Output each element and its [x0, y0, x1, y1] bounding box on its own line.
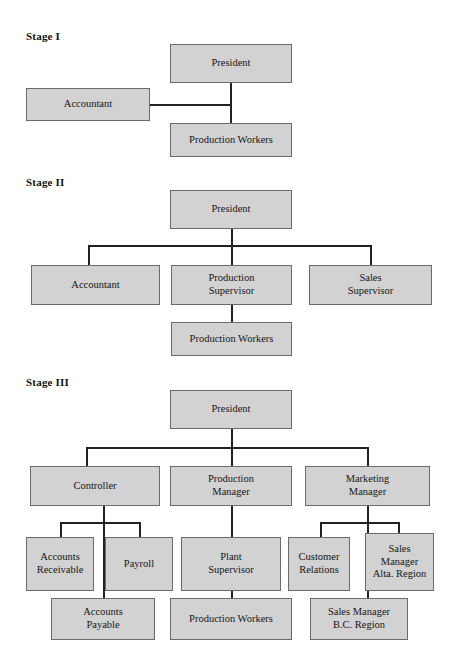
node-s3-payroll: Payroll [105, 537, 173, 591]
node-label: ProductionManager [173, 473, 289, 499]
connector-s2-drop-production-supervisor [231, 245, 233, 265]
node-s2-production-supervisor: ProductionSupervisor [171, 265, 292, 305]
connector-s3-controller-bus [60, 522, 140, 524]
node-s1-accountant: Accountant [26, 88, 150, 121]
node-s1-production-workers: Production Workers [170, 123, 292, 157]
connector-s2-supervisor-to-workers [231, 305, 233, 322]
node-label: Accountant [34, 279, 157, 292]
node-label: CustomerRelations [291, 551, 347, 577]
node-s3-sales-manager-bc: Sales ManagerB.C. Region [310, 598, 408, 640]
node-label: President [173, 57, 289, 70]
node-label: Controller [33, 480, 157, 493]
node-s1-president: President [170, 44, 292, 83]
connector-s3-production-manager-to-plant [231, 506, 233, 537]
connector-s3-drop-controller [86, 447, 88, 466]
node-label: AccountsPayable [54, 606, 152, 632]
node-label: Payroll [108, 558, 170, 571]
node-s3-customer-relations: CustomerRelations [288, 537, 350, 591]
connector-s2-drop-sales-supervisor [370, 245, 372, 265]
connector-s2-bus [88, 245, 371, 247]
node-label: SalesSupervisor [312, 272, 429, 298]
node-label: ProductionSupervisor [174, 272, 289, 298]
connector-s3-president-stem [231, 429, 233, 448]
node-label: Production Workers [173, 613, 289, 626]
node-s3-marketing-manager: MarketingManager [305, 466, 430, 506]
connector-s3-drop-payroll [139, 522, 141, 537]
connector-s3-drop-production-manager [231, 447, 233, 466]
node-label: President [173, 203, 289, 216]
org-chart-diagram: Stage I President Accountant Production … [0, 0, 475, 670]
connector-s3-drop-customer-relations [320, 522, 322, 537]
connector-s3-drop-accounts-receivable [60, 522, 62, 537]
node-label: Accountant [29, 98, 147, 111]
stage-3-label: Stage III [26, 376, 69, 388]
node-s3-sales-manager-alta: SalesManagerAlta. Region [365, 533, 434, 591]
node-label: Sales ManagerB.C. Region [313, 606, 405, 632]
node-s3-plant-supervisor: PlantSupervisor [181, 537, 281, 591]
connector-s1-president-to-workers [230, 83, 232, 123]
node-label: MarketingManager [308, 473, 427, 499]
node-s2-sales-supervisor: SalesSupervisor [309, 265, 432, 305]
node-s2-accountant: Accountant [31, 265, 160, 305]
node-s2-production-workers: Production Workers [171, 322, 292, 356]
connector-s3-marketing-bus [320, 522, 399, 524]
node-s3-production-manager: ProductionManager [170, 466, 292, 506]
node-s3-controller: Controller [30, 466, 160, 506]
node-label: AccountsReceivable [29, 551, 91, 577]
stage-1-label: Stage I [26, 30, 60, 42]
node-label: SalesManagerAlta. Region [368, 543, 431, 581]
connector-s3-marketing-stem [367, 506, 369, 523]
node-s3-production-workers: Production Workers [170, 598, 292, 640]
connector-s3-controller-stem [103, 506, 105, 523]
node-s3-president: President [170, 390, 292, 429]
node-label: PlantSupervisor [184, 551, 278, 577]
connector-s3-drop-marketing-manager [367, 447, 369, 466]
connector-s2-president-stem [231, 229, 233, 245]
connector-s1-accountant-to-president [150, 104, 231, 106]
node-label: President [173, 403, 289, 416]
connector-s2-drop-accountant [88, 245, 90, 265]
node-s3-accounts-payable: AccountsPayable [51, 598, 155, 640]
connector-s3-bus [86, 447, 368, 449]
node-label: Production Workers [173, 134, 289, 147]
node-s2-president: President [170, 190, 292, 229]
node-s3-accounts-receivable: AccountsReceivable [26, 537, 94, 591]
stage-2-label: Stage II [26, 176, 65, 188]
node-label: Production Workers [174, 333, 289, 346]
